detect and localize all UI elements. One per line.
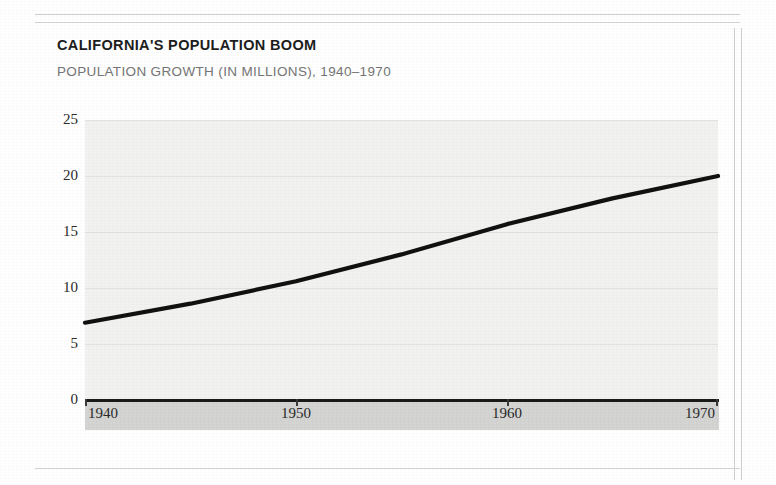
scanned-page: CALIFORNIA'S POPULATION BOOM POPULATION … (0, 0, 776, 485)
x-tick-1940 (85, 399, 87, 406)
y-tick-label-5: 5 (10, 336, 78, 351)
x-tick-1970 (716, 399, 718, 406)
series-line-california-population (85, 120, 718, 400)
x-tick-label-1960: 1960 (492, 406, 522, 421)
y-tick-label-10: 10 (10, 280, 78, 295)
y-tick-label-15: 15 (10, 224, 78, 239)
x-tick-label-1950: 1950 (281, 406, 311, 421)
y-tick-label-0: 0 (10, 392, 78, 407)
x-tick-label-1940: 1940 (88, 406, 118, 421)
x-axis-band (85, 402, 719, 430)
figure-block: CALIFORNIA'S POPULATION BOOM POPULATION … (0, 0, 734, 485)
y-axis-tick-labels: 0510152025 (0, 0, 78, 485)
y-tick-label-20: 20 (10, 168, 78, 183)
x-tick-label-1970: 1970 (685, 406, 715, 421)
page-rule-right-inner (734, 28, 735, 480)
y-tick-label-25: 25 (10, 112, 78, 127)
line-chart: 0510152025 1940195019601970 (0, 0, 734, 485)
page-rule-right-outer (741, 28, 742, 480)
